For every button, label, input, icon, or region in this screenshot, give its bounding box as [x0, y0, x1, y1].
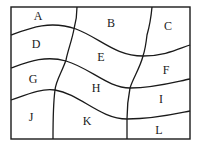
region-label-a: A	[34, 9, 43, 23]
region-label-d: D	[32, 37, 41, 51]
vertical-curve-1	[53, 7, 77, 139]
horizontal-curve-3	[11, 90, 190, 119]
region-label-c: C	[164, 19, 172, 33]
region-label-i: I	[159, 92, 163, 106]
region-label-k: K	[83, 114, 92, 128]
region-label-f: F	[163, 63, 170, 77]
region-label-j: J	[29, 110, 34, 124]
region-map-diagram: A B C D E F G H I J K L	[0, 0, 200, 147]
region-label-g: G	[29, 72, 38, 86]
region-label-b: B	[107, 16, 115, 30]
region-label-l: L	[155, 123, 162, 137]
region-label-h: H	[92, 81, 101, 95]
region-label-e: E	[97, 50, 104, 64]
